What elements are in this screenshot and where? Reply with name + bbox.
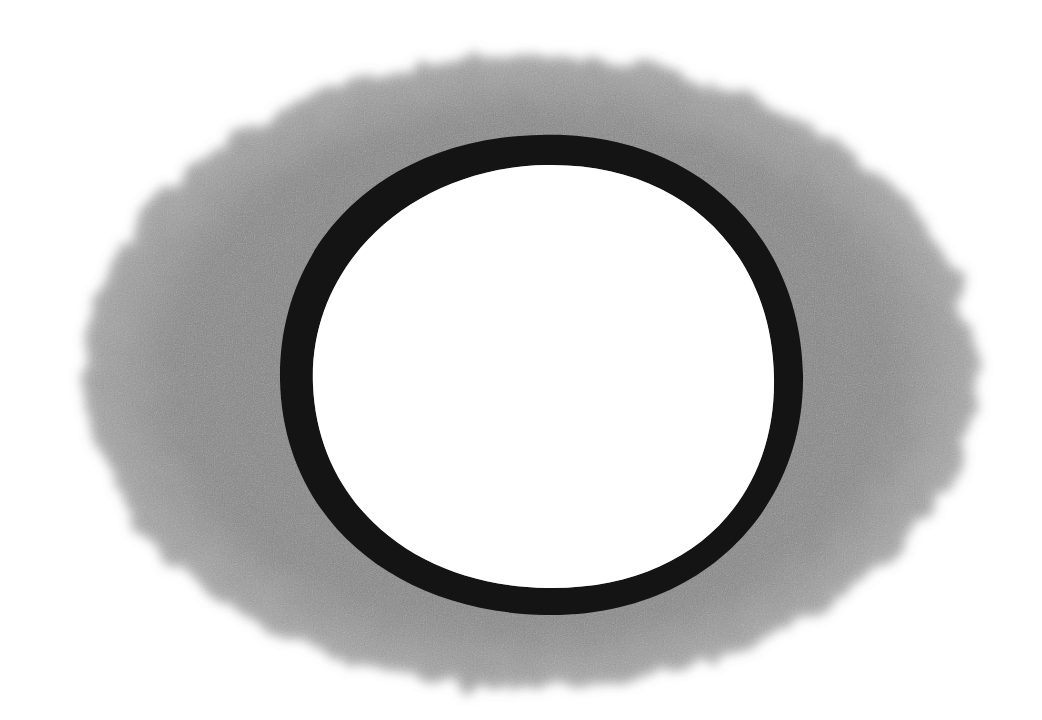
center-white bbox=[313, 165, 774, 588]
drawing-canvas: Pencil drawing of a dark ring surrounded… bbox=[0, 0, 1042, 720]
ring-illustration bbox=[0, 0, 1042, 720]
